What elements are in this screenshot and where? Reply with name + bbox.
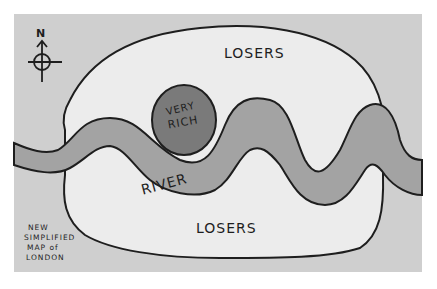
map-title-line2: SIMPLIFIED (24, 233, 75, 242)
losers-south-label: LOSERS (196, 220, 257, 236)
losers-north-label: LOSERS (224, 45, 285, 61)
map-title-line4: LONDON (26, 253, 65, 262)
compass-north-label: N (36, 27, 46, 40)
simplified-london-map: N LOSERS LOSERS VERY RICH RIVER NEW SIMP… (0, 0, 437, 289)
map-title-line1: NEW (28, 223, 49, 232)
map-title-line3: MAP of (27, 243, 59, 252)
